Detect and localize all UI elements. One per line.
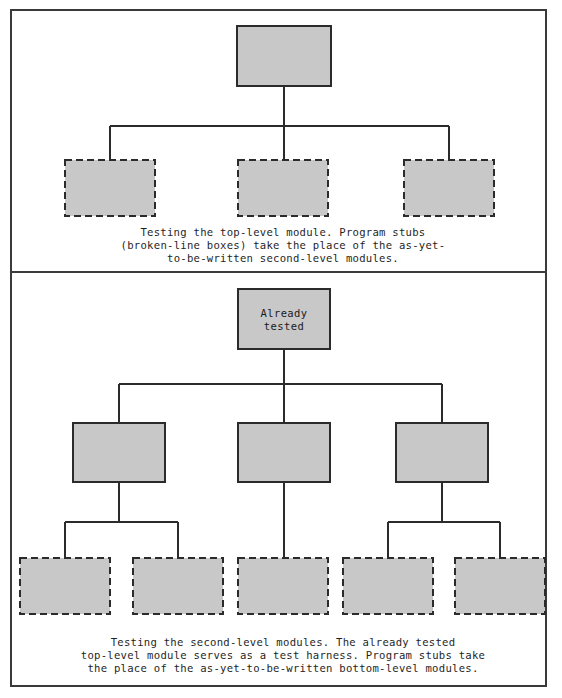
program-stub-5[interactable] xyxy=(455,558,545,614)
module-box-solid xyxy=(238,423,330,482)
figure-root: Testing the top-level module. Program st… xyxy=(0,0,562,698)
module-box-dashed xyxy=(238,558,328,614)
module-box-dashed xyxy=(343,558,433,614)
caption-line: (broken-line boxes) take the place of th… xyxy=(121,239,446,251)
panel-caption: Testing the second-level modules. The al… xyxy=(81,636,485,674)
program-stub-right[interactable] xyxy=(404,160,494,216)
module-box-solid xyxy=(73,423,165,482)
program-stub-3[interactable] xyxy=(238,558,328,614)
top-level-module[interactable] xyxy=(237,26,331,86)
second-level-module-left[interactable] xyxy=(73,423,165,482)
caption-line: the place of the as-yet-to-be-written bo… xyxy=(87,662,478,674)
program-stub-2[interactable] xyxy=(133,558,223,614)
panel-caption: Testing the top-level module. Program st… xyxy=(121,226,446,264)
caption-line: to-be-written second-level modules. xyxy=(167,252,399,264)
module-label: Already xyxy=(260,307,307,319)
program-stub-center[interactable] xyxy=(238,160,328,216)
program-stub-1[interactable] xyxy=(20,558,110,614)
module-box-dashed xyxy=(65,160,155,216)
already-tested-top-level-module[interactable]: Alreadytested xyxy=(238,289,330,349)
caption-line: Testing the second-level modules. The al… xyxy=(111,636,456,648)
caption-line: Testing the top-level module. Program st… xyxy=(140,226,425,238)
module-label: tested xyxy=(264,320,304,332)
module-box-dashed xyxy=(133,558,223,614)
top-down-testing-diagram: Testing the top-level module. Program st… xyxy=(0,0,562,698)
module-box-dashed xyxy=(455,558,545,614)
program-stub-4[interactable] xyxy=(343,558,433,614)
module-box-dashed xyxy=(20,558,110,614)
module-box-solid xyxy=(396,423,488,482)
module-box-solid xyxy=(237,26,331,86)
module-box-dashed xyxy=(404,160,494,216)
second-level-module-right[interactable] xyxy=(396,423,488,482)
caption-line: top-level module serves as a test harnes… xyxy=(81,649,485,661)
second-level-module-center[interactable] xyxy=(238,423,330,482)
program-stub-left[interactable] xyxy=(65,160,155,216)
module-box-dashed xyxy=(238,160,328,216)
